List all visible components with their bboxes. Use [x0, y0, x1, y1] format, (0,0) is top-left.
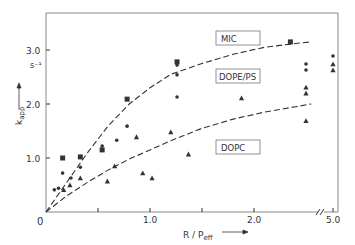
origin-label: 0 [37, 216, 43, 227]
circle-marker [53, 188, 57, 192]
svg-text:DOPE/PS: DOPE/PS [219, 72, 256, 82]
circle-marker [79, 165, 83, 169]
annotation-dopeps: DOPE/PS [216, 69, 260, 83]
square-marker [78, 154, 83, 159]
circle-marker [69, 176, 73, 180]
triangle-marker [330, 61, 335, 66]
circle-marker [100, 144, 104, 148]
triangle-marker [330, 67, 335, 72]
x-tick-label-5: 5.0 [326, 215, 341, 225]
circle-marker [331, 54, 335, 58]
x-axis-label: R / Peff [183, 230, 213, 242]
triangle-marker [168, 129, 173, 134]
triangle-marker [140, 171, 145, 176]
circle-marker [61, 171, 65, 175]
circle-marker [125, 124, 129, 128]
annotation-dopc: DOPC [216, 140, 260, 154]
svg-text:kapp: kapp [14, 106, 26, 125]
x-tick-label-2: 2.0 [247, 215, 262, 225]
svg-text:MIC: MIC [221, 34, 237, 44]
triangle-marker [67, 182, 72, 187]
x-axis-arrow-icon [222, 230, 248, 234]
triangle-marker [105, 179, 110, 184]
y-axis-label: kapp [14, 106, 26, 125]
data-points [53, 39, 336, 192]
triangle-marker [78, 175, 83, 180]
circle-marker [175, 63, 179, 67]
y-tick-label-2: 2.0 [26, 100, 41, 110]
square-marker [288, 39, 293, 44]
square-marker [60, 156, 65, 161]
fit-curves [46, 42, 311, 212]
annotation-mic: MIC [216, 31, 260, 45]
axis-ticks [46, 50, 333, 212]
circle-marker [115, 138, 119, 142]
y-axis-arrow-icon [17, 83, 21, 110]
triangle-marker [186, 152, 191, 157]
circle-marker [175, 95, 179, 99]
circle-marker [304, 68, 308, 72]
plot-frame [46, 13, 338, 212]
circle-marker [57, 186, 61, 190]
square-marker [125, 97, 130, 102]
kapp-vs-r-peff-chart: 0 1.0 2.0 5.0 1.0 2.0 3.0 s⁻¹ kapp R / P… [0, 0, 355, 245]
y-unit-label: s⁻¹ [30, 61, 42, 70]
circle-marker [175, 73, 179, 77]
triangle-marker [303, 91, 308, 96]
triangle-marker [134, 134, 139, 139]
y-tick-label-1: 1.0 [26, 154, 41, 164]
y-tick-label-3: 3.0 [26, 46, 41, 56]
fit-curve-0 [46, 42, 311, 212]
triangle-marker [149, 175, 154, 180]
svg-text:DOPC: DOPC [221, 143, 245, 153]
triangle-marker [239, 95, 244, 100]
triangle-marker [303, 118, 308, 123]
x-tick-label-1: 1.0 [143, 215, 158, 225]
square-marker [100, 147, 105, 152]
circle-marker [304, 62, 308, 66]
fit-curve-1 [46, 104, 311, 212]
triangle-marker [303, 85, 308, 90]
